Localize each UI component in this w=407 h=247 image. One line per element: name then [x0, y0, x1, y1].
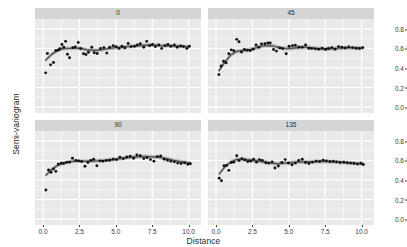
data-point [60, 162, 63, 165]
data-point [169, 45, 172, 48]
x-tick-mark [325, 225, 326, 227]
data-point [297, 159, 300, 162]
data-point [80, 160, 83, 163]
x-tick-mark [79, 225, 80, 227]
data-point [160, 47, 163, 50]
data-point [176, 46, 179, 49]
loess-smooth-line [46, 156, 190, 175]
data-point [349, 162, 352, 165]
data-point [225, 61, 228, 64]
data-point [163, 158, 166, 161]
data-point [115, 45, 118, 48]
data-point [294, 162, 297, 165]
data-point [125, 155, 128, 158]
data-point [227, 52, 230, 55]
y-tick-label: 0.8 [374, 137, 407, 144]
data-point [135, 154, 138, 157]
data-point [57, 163, 60, 166]
data-point [243, 48, 246, 51]
data-point [291, 163, 294, 166]
data-point [217, 73, 220, 76]
y-tick-label: 0.4 [374, 64, 407, 71]
data-point [294, 44, 297, 47]
data-point [249, 49, 252, 52]
data-point [225, 164, 228, 167]
data-point [52, 168, 55, 171]
data-point [238, 40, 241, 43]
data-point [361, 46, 364, 49]
data-point [99, 47, 102, 50]
data-point [99, 159, 102, 162]
data-point [102, 160, 105, 163]
data-point [136, 43, 139, 46]
data-point [173, 43, 176, 46]
data-point [139, 42, 142, 45]
data-point [173, 160, 176, 163]
data-point [148, 44, 151, 47]
x-tick-mark [216, 225, 217, 227]
data-point [123, 46, 126, 49]
data-point [339, 161, 342, 164]
x-tick-label: 10.0 [182, 228, 195, 235]
x-tick-label: 0.0 [38, 228, 47, 235]
data-point [90, 46, 93, 49]
data-point [356, 163, 359, 166]
data-point [246, 160, 249, 163]
data-point [74, 45, 77, 48]
data-point [50, 171, 53, 174]
data-point [176, 162, 179, 165]
data-point [164, 44, 167, 47]
data-point [223, 164, 226, 167]
panel-plot-area-135 [208, 131, 374, 225]
x-tick-mark [289, 225, 290, 227]
data-point [274, 167, 277, 170]
data-point [65, 161, 68, 164]
data-point [342, 161, 345, 164]
data-point [112, 44, 115, 47]
data-point [344, 46, 347, 49]
data-point [328, 160, 331, 163]
data-point [85, 53, 88, 56]
data-point [74, 159, 77, 162]
data-point [127, 42, 130, 45]
data-point [71, 46, 74, 49]
data-point [284, 158, 287, 161]
data-point [180, 162, 183, 165]
data-point [235, 154, 238, 157]
x-tick-label: 2.5 [248, 228, 257, 235]
data-point [240, 157, 243, 160]
data-point [142, 157, 145, 160]
x-tick-label: 5.0 [284, 228, 293, 235]
data-point [108, 159, 111, 162]
facet-strip-label: 45 [287, 10, 294, 17]
facet-strip-90: 90 [35, 120, 201, 131]
x-axis-title: Distance [0, 236, 407, 246]
y-tick-label: 0.4 [374, 176, 407, 183]
data-point [133, 45, 136, 48]
x-tick-label: 0.0 [211, 228, 220, 235]
data-point [315, 160, 318, 163]
data-point [324, 48, 327, 51]
data-point [325, 159, 328, 162]
data-point [252, 48, 255, 51]
data-point [314, 47, 317, 50]
data-point [280, 161, 283, 164]
data-point [77, 41, 80, 44]
facet-panel-135: 135 [208, 120, 374, 225]
data-point [185, 47, 188, 50]
data-point [188, 45, 191, 48]
data-point [335, 160, 338, 163]
x-tick-label: 7.5 [148, 228, 157, 235]
data-point [337, 45, 340, 48]
data-point [108, 46, 111, 49]
data-point [230, 161, 233, 164]
data-point [186, 163, 189, 166]
y-tick-label: 0.2 [374, 84, 407, 91]
data-point [249, 160, 252, 163]
data-point [102, 46, 105, 49]
data-point [307, 47, 310, 50]
facet-strip-45: 45 [208, 8, 374, 19]
facet-strip-label: 90 [114, 122, 121, 129]
data-point [327, 47, 330, 50]
data-point [122, 157, 125, 160]
